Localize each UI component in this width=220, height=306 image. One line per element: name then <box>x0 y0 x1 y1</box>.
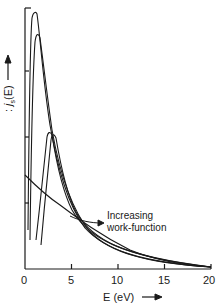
y-axis-label: : js(E) <box>2 85 16 112</box>
x-tick-label-10: 10 <box>111 274 123 286</box>
x-tick-label-15: 15 <box>158 274 170 286</box>
y-axis-arrow-icon <box>5 55 11 80</box>
arrow-head-icon <box>98 220 104 226</box>
annotation-line2: work-function <box>106 222 166 233</box>
energy-distribution-chart: Increasing work-function 0 5 10 15 20 E … <box>0 0 220 306</box>
x-tick-label-5: 5 <box>68 274 74 286</box>
x-tick-label-0: 0 <box>21 274 27 286</box>
curve-5 <box>25 175 211 267</box>
x-axis-arrow-icon <box>142 294 162 300</box>
x-tick-label-20: 20 <box>203 274 215 286</box>
annotation-line1: Increasing <box>107 210 153 221</box>
curve-4 <box>41 135 211 267</box>
x-axis-label: E (eV) <box>103 291 134 303</box>
svg-text:: js(E): : js(E) <box>2 85 16 112</box>
